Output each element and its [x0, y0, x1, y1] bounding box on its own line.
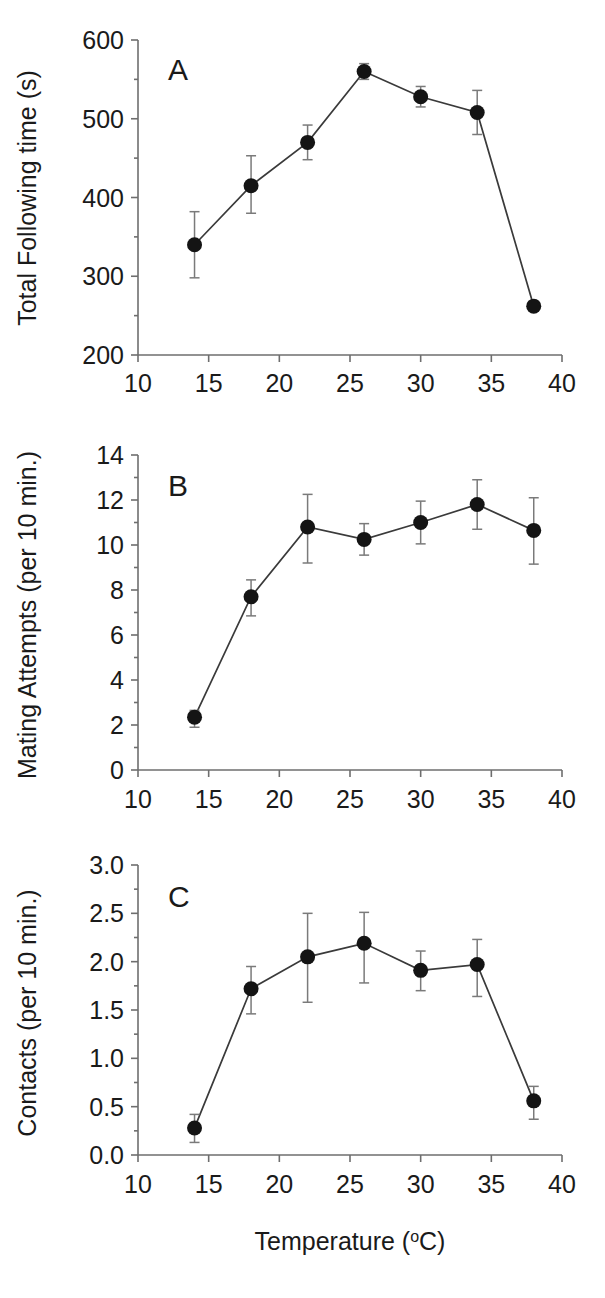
- y-tick-group: 200300400500600: [82, 26, 138, 369]
- x-axis-label: Temperature (oC): [255, 1227, 446, 1255]
- x-tick-label: 15: [195, 369, 223, 397]
- data-point-marker: [187, 237, 202, 252]
- y-tick-label: 2.5: [89, 899, 124, 927]
- y-tick-group: 0.00.51.01.52.02.53.0: [89, 851, 138, 1169]
- x-tick-label: 10: [124, 369, 152, 397]
- x-tick-label: 25: [336, 1170, 364, 1198]
- y-tick-label: 2: [110, 711, 124, 739]
- y-tick-label: 0: [110, 756, 124, 784]
- panel-b-plot: 0246810121410152025303540Mating Attempts…: [0, 420, 605, 835]
- y-tick-group: 02468101214: [96, 441, 138, 784]
- y-tick-label: 6: [110, 621, 124, 649]
- x-tick-group: 10152025303540: [124, 355, 576, 397]
- data-point-marker: [187, 710, 202, 725]
- data-point-marker: [413, 963, 428, 978]
- x-tick-label: 20: [265, 369, 293, 397]
- data-point-marker: [300, 520, 315, 535]
- x-tick-label: 25: [336, 369, 364, 397]
- data-point-marker: [413, 89, 428, 104]
- panel-c-plot: 0.00.51.01.52.02.53.010152025303540Conta…: [0, 835, 605, 1298]
- y-tick-label: 12: [96, 486, 124, 514]
- y-tick-label: 500: [82, 105, 124, 133]
- y-tick-label: 600: [82, 26, 124, 54]
- figure-three-panel-temperature: 20030040050060010152025303540Total Follo…: [0, 0, 605, 1298]
- panel-a: 20030040050060010152025303540Total Follo…: [0, 0, 605, 420]
- y-tick-label: 4: [110, 666, 124, 694]
- x-tick-label: 35: [477, 785, 505, 813]
- x-tick-label: 30: [407, 785, 435, 813]
- data-point-marker: [187, 1120, 202, 1135]
- x-tick-label: 35: [477, 369, 505, 397]
- data-point-marker: [244, 589, 259, 604]
- axes: [138, 40, 562, 355]
- x-tick-label: 10: [124, 1170, 152, 1198]
- y-tick-label: 0.5: [89, 1093, 124, 1121]
- x-tick-label: 40: [548, 1170, 576, 1198]
- x-tick-label: 30: [407, 1170, 435, 1198]
- y-tick-label: 300: [82, 262, 124, 290]
- axes: [138, 455, 562, 770]
- y-tick-label: 3.0: [89, 851, 124, 879]
- data-point-marker: [357, 532, 372, 547]
- y-tick-label: 0.0: [89, 1141, 124, 1169]
- data-point-marker: [357, 64, 372, 79]
- marker-group: [187, 64, 541, 314]
- x-tick-label: 40: [548, 369, 576, 397]
- data-point-marker: [470, 497, 485, 512]
- data-point-marker: [244, 178, 259, 193]
- x-tick-group: 10152025303540: [124, 770, 576, 813]
- data-point-marker: [244, 981, 259, 996]
- data-point-marker: [526, 1093, 541, 1108]
- y-tick-label: 200: [82, 341, 124, 369]
- x-tick-label: 20: [265, 785, 293, 813]
- y-tick-label: 1.5: [89, 996, 124, 1024]
- data-point-marker: [470, 105, 485, 120]
- data-point-marker: [413, 515, 428, 530]
- panel-a-plot: 20030040050060010152025303540Total Follo…: [0, 0, 605, 420]
- data-point-marker: [300, 949, 315, 964]
- x-tick-label: 40: [548, 785, 576, 813]
- x-tick-label: 15: [195, 1170, 223, 1198]
- y-tick-label: 400: [82, 184, 124, 212]
- x-tick-group: 10152025303540: [124, 1155, 576, 1198]
- data-point-marker: [357, 936, 372, 951]
- x-tick-label: 35: [477, 1170, 505, 1198]
- y-tick-label: 1.0: [89, 1044, 124, 1072]
- data-point-marker: [526, 523, 541, 538]
- y-tick-label: 8: [110, 576, 124, 604]
- data-point-marker: [470, 957, 485, 972]
- panel-letter: C: [168, 880, 190, 913]
- panel-letter: B: [168, 469, 188, 502]
- panel-c: 0.00.51.01.52.02.53.010152025303540Conta…: [0, 835, 605, 1298]
- x-tick-label: 10: [124, 785, 152, 813]
- y-tick-label: 10: [96, 531, 124, 559]
- y-axis-label: Mating Attempts (per 10 min.): [13, 451, 41, 779]
- y-tick-label: 14: [96, 441, 124, 469]
- x-tick-label: 15: [195, 785, 223, 813]
- x-tick-label: 30: [407, 369, 435, 397]
- error-bar-group: [190, 480, 539, 728]
- panel-letter: A: [168, 53, 188, 86]
- data-point-marker: [526, 299, 541, 314]
- y-axis-label: Total Following time (s): [13, 70, 41, 326]
- panel-b: 0246810121410152025303540Mating Attempts…: [0, 420, 605, 835]
- x-tick-label: 20: [265, 1170, 293, 1198]
- data-point-marker: [300, 135, 315, 150]
- y-tick-label: 2.0: [89, 948, 124, 976]
- x-tick-label: 25: [336, 785, 364, 813]
- y-axis-label: Contacts (per 10 min.): [13, 889, 41, 1136]
- error-bar-group: [190, 64, 483, 278]
